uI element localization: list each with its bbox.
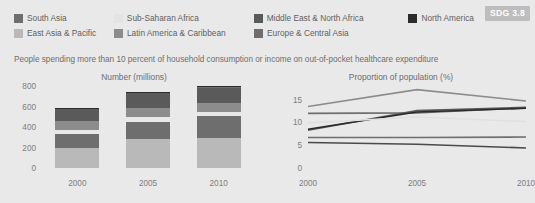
legend-swatch xyxy=(254,29,263,38)
bar-segment xyxy=(55,109,99,121)
bar-chart-title: Number (millions) xyxy=(0,72,268,82)
bar-segment xyxy=(126,108,170,117)
legend-item-south-asia: South Asia xyxy=(14,13,114,24)
bar-y-axis-tick: 400 xyxy=(22,123,36,132)
line-chart-svg xyxy=(308,86,526,168)
line-y-axis-tick: 0 xyxy=(297,164,302,173)
bar-segment xyxy=(197,87,241,88)
legend-swatch xyxy=(114,29,123,38)
legend-label: Sub-Saharan Africa xyxy=(127,13,199,24)
legend-item-north-america: North America xyxy=(408,13,474,24)
bar-segment xyxy=(126,122,170,140)
bar-segment xyxy=(55,108,99,109)
bar-segment xyxy=(55,121,99,130)
line-y-axis-tick: 15 xyxy=(293,95,302,104)
legend-label: Europe & Central Asia xyxy=(267,28,349,39)
bar-segment xyxy=(55,148,99,169)
bar-stack xyxy=(55,86,99,168)
bar-y-axis-tick: 800 xyxy=(22,82,36,91)
line-chart-title: Proportion of population (%) xyxy=(268,72,534,82)
chart-legend: South Asia Sub-Saharan Africa Middle Eas… xyxy=(14,12,474,42)
bar-segment xyxy=(197,112,241,117)
legend-item-middle-east-north-africa: Middle East & North Africa xyxy=(254,13,409,24)
legend-swatch xyxy=(408,14,417,23)
bar-x-axis-tick: 2010 xyxy=(210,179,228,188)
clipped-headline-strip xyxy=(0,0,534,7)
legend-row: East Asia & Pacific Latin America & Cari… xyxy=(14,27,474,40)
legend-swatch xyxy=(14,29,23,38)
legend-item-latin-america-caribbean: Latin America & Caribbean xyxy=(114,28,254,39)
line-x-axis-tick: 2000 xyxy=(299,179,317,188)
line-chart-plot-area: 051015200020052010 xyxy=(308,86,526,168)
legend-label: East Asia & Pacific xyxy=(27,28,96,39)
legend-label: Latin America & Caribbean xyxy=(127,28,226,39)
legend-item-sub-saharan-africa: Sub-Saharan Africa xyxy=(114,13,254,24)
bar-segment xyxy=(126,92,170,93)
legend-row: South Asia Sub-Saharan Africa Middle Eas… xyxy=(14,12,474,25)
line-series xyxy=(308,142,526,147)
chart-subtitle: People spending more than 10 percent of … xyxy=(14,55,438,64)
line-x-axis-tick: 2010 xyxy=(517,179,535,188)
bar-stack xyxy=(126,86,170,168)
legend-swatch xyxy=(114,14,123,23)
line-series xyxy=(308,90,526,107)
bar-y-axis-tick: 200 xyxy=(22,143,36,152)
line-x-axis-tick: 2005 xyxy=(408,179,426,188)
line-y-axis-tick: 5 xyxy=(297,141,302,150)
legend-label: North America xyxy=(421,13,474,24)
line-series xyxy=(308,117,526,123)
sdg-goal-badge: SDG 3.8 xyxy=(485,6,530,21)
bar-segment xyxy=(197,138,241,168)
bar-segment xyxy=(126,139,170,168)
line-chart-panel: Proportion of population (%) 05101520002… xyxy=(268,72,534,200)
legend-label: Middle East & North Africa xyxy=(267,13,364,24)
bar-segment xyxy=(197,86,241,87)
bar-chart-panel: Number (millions) 0200400600800200020052… xyxy=(0,72,268,200)
bar-chart-plot-area: 0200400600800200020052010 xyxy=(42,86,254,168)
line-series xyxy=(308,108,526,129)
bar-segment xyxy=(197,103,241,112)
bar-segment xyxy=(126,92,170,93)
bar-y-axis-tick: 600 xyxy=(22,102,36,111)
bar-x-axis-tick: 2005 xyxy=(139,179,157,188)
bar-x-axis-tick: 2000 xyxy=(68,179,86,188)
bar-segment xyxy=(197,116,241,138)
legend-swatch xyxy=(254,14,263,23)
line-y-axis-tick: 10 xyxy=(293,118,302,127)
legend-swatch xyxy=(14,14,23,23)
legend-item-east-asia-pacific: East Asia & Pacific xyxy=(14,28,114,39)
bar-stack xyxy=(197,86,241,168)
bar-segment xyxy=(55,134,99,147)
bar-segment xyxy=(126,93,170,108)
bar-segment xyxy=(126,117,170,122)
bar-segment xyxy=(55,130,99,134)
bar-y-axis-tick: 0 xyxy=(31,164,36,173)
legend-item-europe-central-asia: Europe & Central Asia xyxy=(254,28,349,39)
bar-segment xyxy=(197,88,241,103)
line-series xyxy=(308,107,526,130)
legend-label: South Asia xyxy=(27,13,67,24)
